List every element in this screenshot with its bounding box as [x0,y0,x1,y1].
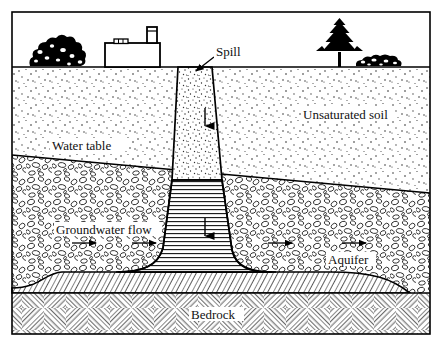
label-unsaturated-soil: Unsaturated soil [301,107,395,122]
label-spill: Spill [214,44,246,59]
diagram-canvas: Spill Unsaturated soil Water table Groun… [0,0,442,346]
label-bedrock: Bedrock [189,307,244,322]
stratum-dnapl-pool [12,272,410,293]
label-water-table-text: Water table [52,138,111,153]
label-spill-text: Spill [216,44,241,59]
label-unsaturated-soil-text: Unsaturated soil [303,107,388,122]
label-aquifer-text: Aquifer [328,252,369,267]
label-aquifer: Aquifer [326,252,376,267]
label-water-table: Water table [50,138,125,153]
label-groundwater-flow-text: Groundwater flow [56,222,152,237]
smokestack-icon [147,27,157,43]
cross-section-svg: Spill Unsaturated soil Water table Groun… [0,0,442,346]
label-bedrock-text: Bedrock [191,307,236,322]
label-groundwater-flow: Groundwater flow [54,222,162,237]
